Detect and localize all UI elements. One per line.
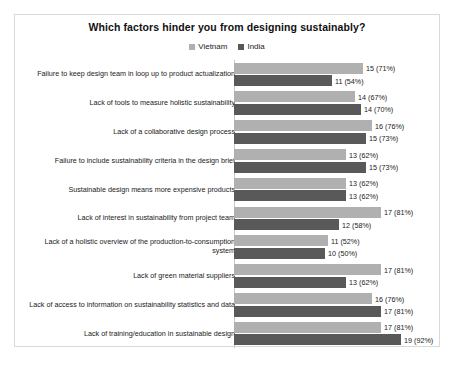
bar-group: Sustainable design means more expensive …	[15, 175, 441, 204]
bar-value-label: 15 (73%)	[366, 134, 398, 143]
legend-label-india: India	[247, 42, 264, 51]
bar-vietnam	[234, 149, 346, 160]
category-label: Lack of green material suppliers	[23, 272, 235, 281]
bar-row: 17 (81%)	[234, 306, 441, 317]
bar-value-label: 17 (81%)	[381, 208, 413, 217]
bar-group: Lack of training/education in sustainabl…	[15, 319, 441, 348]
bar-india	[234, 133, 366, 144]
bar-vietnam	[234, 120, 372, 131]
bar-value-label: 16 (76%)	[372, 294, 404, 303]
bar-value-label: 13 (62%)	[346, 150, 378, 159]
legend-swatch-vietnam	[189, 44, 195, 50]
bar-row: 13 (62%)	[234, 277, 441, 288]
bar-row: 16 (76%)	[234, 120, 441, 131]
category-label: Lack of training/education in sustainabl…	[23, 329, 235, 338]
bar-india	[234, 190, 346, 201]
bar-vietnam	[234, 91, 355, 102]
bar-value-label: 13 (62%)	[346, 278, 378, 287]
bar-row: 15 (73%)	[234, 133, 441, 144]
chart-legend: Vietnam India	[15, 42, 439, 51]
bar-group: Lack of access to information on sustain…	[15, 290, 441, 319]
bar-value-label: 17 (81%)	[381, 323, 413, 332]
bar-vietnam	[234, 264, 381, 275]
category-label: Lack of tools to measure holistic sustai…	[23, 99, 235, 108]
bar-group: Lack of tools to measure holistic sustai…	[15, 89, 441, 118]
bar-group: Lack of a collaborative design process16…	[15, 118, 441, 147]
bar-value-label: 13 (62%)	[346, 179, 378, 188]
bar-value-label: 10 (50%)	[325, 249, 357, 258]
bar-group: Lack of green material suppliers17 (81%)…	[15, 262, 441, 291]
bar-row: 11 (52%)	[234, 235, 441, 246]
category-label: Lack of interest in sustainability from …	[23, 214, 235, 223]
bar-vietnam	[234, 235, 328, 246]
bar-vietnam	[234, 322, 381, 333]
category-label: Lack of a collaborative design process	[23, 128, 235, 137]
bar-value-label: 13 (62%)	[346, 191, 378, 200]
bar-vietnam	[234, 293, 372, 304]
bar-value-label: 16 (76%)	[372, 121, 404, 130]
legend-label-vietnam: Vietnam	[198, 42, 227, 51]
bar-row: 12 (58%)	[234, 219, 441, 230]
bar-group: Lack of a holistic overview of the produ…	[15, 233, 441, 262]
bar-row: 11 (54%)	[234, 75, 441, 86]
legend-swatch-india	[238, 44, 244, 50]
bar-value-label: 17 (81%)	[381, 265, 413, 274]
bar-value-label: 14 (70%)	[361, 105, 393, 114]
bar-value-label: 19 (92%)	[401, 335, 433, 344]
category-label: Failure to keep design team in loop up t…	[23, 70, 235, 79]
bar-row: 14 (67%)	[234, 91, 441, 102]
bar-value-label: 11 (54%)	[332, 76, 364, 85]
bar-group: Failure to keep design team in loop up t…	[15, 60, 441, 89]
bar-india	[234, 334, 401, 345]
bar-row: 14 (70%)	[234, 104, 441, 115]
bar-row: 10 (50%)	[234, 248, 441, 259]
bar-row: 13 (62%)	[234, 149, 441, 160]
bar-value-label: 15 (71%)	[363, 64, 395, 73]
chart-container: Which factors hinder you from designing …	[14, 14, 440, 347]
bar-value-label: 12 (58%)	[339, 220, 371, 229]
bar-value-label: 11 (52%)	[328, 236, 360, 245]
bar-india	[234, 248, 325, 259]
bar-row: 16 (76%)	[234, 293, 441, 304]
bar-value-label: 15 (73%)	[366, 163, 398, 172]
category-label: Lack of a holistic overview of the produ…	[23, 238, 235, 256]
bar-vietnam	[234, 207, 381, 218]
bar-row: 15 (73%)	[234, 162, 441, 173]
legend-item-india: India	[238, 42, 264, 51]
category-label: Sustainable design means more expensive …	[23, 185, 235, 194]
bar-value-label: 14 (67%)	[355, 92, 387, 101]
bar-india	[234, 162, 366, 173]
bar-vietnam	[234, 178, 346, 189]
bar-india	[234, 277, 346, 288]
category-label: Failure to include sustainability criter…	[23, 156, 235, 165]
bar-india	[234, 104, 361, 115]
bar-row: 19 (92%)	[234, 334, 441, 345]
bar-group: Failure to include sustainability criter…	[15, 146, 441, 175]
bar-row: 17 (81%)	[234, 207, 441, 218]
bar-row: 17 (81%)	[234, 322, 441, 333]
legend-item-vietnam: Vietnam	[189, 42, 227, 51]
bar-india	[234, 219, 339, 230]
plot-area: Failure to keep design team in loop up t…	[15, 60, 441, 348]
bar-row: 17 (81%)	[234, 264, 441, 275]
chart-title: Which factors hinder you from designing …	[15, 21, 439, 33]
bar-india	[234, 75, 332, 86]
bar-value-label: 17 (81%)	[381, 307, 413, 316]
bar-group: Lack of interest in sustainability from …	[15, 204, 441, 233]
bar-vietnam	[234, 63, 363, 74]
bar-row: 15 (71%)	[234, 63, 441, 74]
bar-india	[234, 306, 381, 317]
bar-row: 13 (62%)	[234, 190, 441, 201]
category-label: Lack of access to information on sustain…	[23, 300, 235, 309]
bar-row: 13 (62%)	[234, 178, 441, 189]
